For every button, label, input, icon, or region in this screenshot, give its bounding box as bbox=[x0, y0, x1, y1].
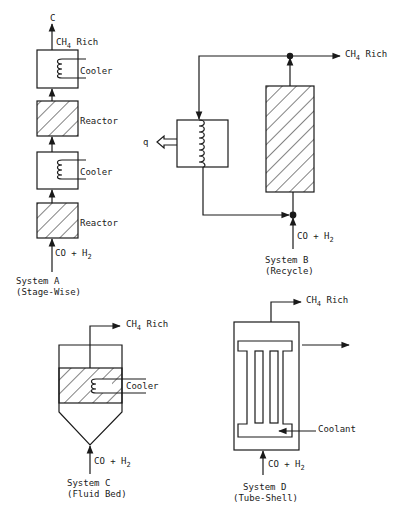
system-c-inlet-label: CO + H2 bbox=[94, 456, 131, 466]
system-a bbox=[37, 24, 86, 272]
system-b-reactor bbox=[266, 86, 314, 192]
system-a-cooler-1-label: Cooler bbox=[80, 66, 113, 76]
system-a-caption-line2: (Stage-Wise) bbox=[16, 287, 81, 297]
system-d-caption-line2: (Tube-Shell) bbox=[233, 493, 298, 503]
system-a-outlet-label: CH4 Rich bbox=[56, 37, 98, 47]
system-a-cooler-2 bbox=[37, 152, 78, 189]
system-d-tube-bundle bbox=[238, 341, 292, 437]
system-b-inlet-label: CO + H2 bbox=[297, 231, 334, 241]
system-c-cooler-label: Cooler bbox=[126, 381, 159, 391]
system-c bbox=[59, 326, 146, 474]
system-a-inlet-label: CO + H2 bbox=[55, 248, 92, 258]
system-d-tube-slot-2 bbox=[270, 351, 278, 423]
system-b-cooler-coil-icon bbox=[199, 120, 205, 167]
system-b bbox=[157, 53, 340, 249]
system-d-outlet-label: CH4 Rich bbox=[306, 295, 348, 305]
system-b-top-node bbox=[287, 53, 292, 58]
system-c-caption-line1: System C bbox=[67, 478, 110, 488]
system-a-reactor-2-label: Reactor bbox=[80, 218, 118, 228]
system-b-caption-line1: System B bbox=[265, 255, 308, 265]
system-c-cone bbox=[59, 403, 122, 445]
system-a-top-label: C bbox=[50, 13, 55, 23]
system-b-bottom-node bbox=[290, 212, 296, 218]
system-b-outlet-label: CH4 Rich bbox=[345, 49, 387, 59]
system-b-heat-label: q bbox=[143, 137, 148, 147]
system-a-cooler-2-label: Cooler bbox=[80, 167, 113, 177]
system-c-fluid-bed bbox=[59, 368, 122, 403]
system-a-reactor-1-label: Reactor bbox=[80, 116, 118, 126]
system-d-caption-line1: System D bbox=[243, 482, 286, 492]
system-d-coolant-label: Coolant bbox=[318, 424, 356, 434]
system-d-tube-slot-1 bbox=[255, 351, 263, 423]
system-b-caption-line2: (Recycle) bbox=[265, 266, 314, 276]
system-a-reactor-1 bbox=[37, 101, 78, 136]
system-d-inlet-label: CO + H2 bbox=[268, 459, 305, 469]
system-c-outlet-label: CH4 Rich bbox=[126, 319, 168, 329]
system-d bbox=[234, 302, 349, 475]
system-d-outlet-arrow bbox=[271, 302, 301, 322]
system-c-outlet-arrow bbox=[90, 326, 120, 368]
system-b-heat-out-icon bbox=[157, 136, 177, 148]
system-c-caption-line2: (Fluid Bed) bbox=[67, 489, 127, 499]
system-a-caption-line1: System A bbox=[16, 276, 59, 286]
system-a-cooler-1 bbox=[37, 50, 78, 88]
system-a-reactor-2 bbox=[37, 203, 78, 238]
